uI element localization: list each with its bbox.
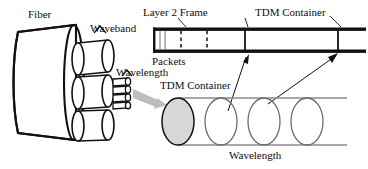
wavelength-mini-cylinder-2 bbox=[113, 86, 131, 94]
layer2-frame-leader bbox=[178, 18, 186, 27]
expansion-arrow bbox=[133, 89, 167, 109]
wavelength-mini-cylinder-1 bbox=[113, 78, 131, 86]
tdm-mapping-leaders bbox=[228, 53, 338, 111]
wavelength-cylinder bbox=[162, 98, 347, 145]
diagram-canvas: Fiber Waveband Wavelength Layer 2 Frame … bbox=[0, 0, 368, 169]
label-waveband: Waveband bbox=[90, 22, 136, 34]
tdm-container-leader-left bbox=[245, 18, 248, 27]
waveband-cylinder-1 bbox=[72, 40, 114, 75]
tdm-container-ellipse-4 bbox=[291, 98, 323, 145]
label-wavelength-left: Wavelength bbox=[116, 66, 168, 78]
waveband-cylinder-3 bbox=[72, 110, 114, 141]
label-layer2-frame: Layer 2 Frame bbox=[143, 6, 208, 18]
wavelength-stack bbox=[113, 78, 131, 109]
label-fiber: Fiber bbox=[28, 8, 51, 20]
label-tdm-container-top: TDM Container bbox=[255, 6, 326, 18]
label-packets: Packets bbox=[152, 55, 186, 67]
wavelength-mini-cylinder-3 bbox=[113, 94, 131, 102]
tdm-container-ellipse-3 bbox=[248, 98, 280, 145]
layer2-frame-bar bbox=[153, 28, 366, 53]
waveband-cylinder-2 bbox=[72, 75, 114, 109]
tdm-container-leader-right bbox=[330, 16, 341, 27]
tdm-container-ellipse-2 bbox=[205, 98, 237, 145]
waveband-cylinders bbox=[72, 40, 114, 141]
tdm-container-ellipse-1 bbox=[162, 98, 194, 145]
wavelength-mini-cylinder-4 bbox=[113, 102, 131, 109]
label-wavelength-bottom: Wavelength bbox=[229, 149, 281, 161]
label-tdm-container-bottom: TDM Container bbox=[160, 79, 231, 91]
